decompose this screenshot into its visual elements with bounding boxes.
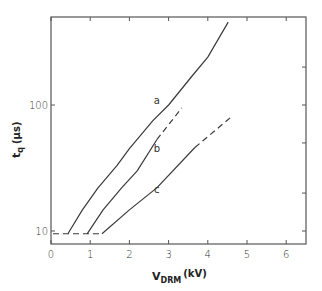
x-tick-label: 4	[205, 249, 211, 260]
curve-label-a: a	[154, 95, 160, 106]
curve-label-b: b	[154, 143, 160, 154]
x-tick-label: 1	[87, 249, 93, 260]
plot-border	[51, 17, 306, 244]
y-axis-label: tq(μs)	[10, 122, 25, 158]
x-tick-label: 0	[48, 249, 54, 260]
curve-b	[87, 140, 157, 234]
curve-label-c: c	[154, 184, 160, 195]
labels: abc	[154, 95, 160, 196]
y-tick-label: 10	[35, 226, 48, 237]
x-tick-label: 3	[165, 249, 171, 260]
plot-frame	[51, 17, 306, 244]
curve-a	[68, 22, 228, 234]
x-tick-label: 6	[283, 249, 289, 260]
y-tick-label: 100	[29, 100, 48, 111]
curve-c-extrapolated	[195, 118, 230, 148]
x-axis-label: VDRM(kV)	[152, 268, 207, 285]
x-tick-label: 5	[244, 249, 250, 260]
x-tick-label: 2	[126, 249, 132, 260]
chart: 012345610100 abc VDRM(kV) tq(μs)	[0, 0, 322, 291]
axis-ticks: 012345610100	[29, 17, 306, 260]
curves	[53, 22, 230, 234]
curve-c	[102, 148, 195, 234]
